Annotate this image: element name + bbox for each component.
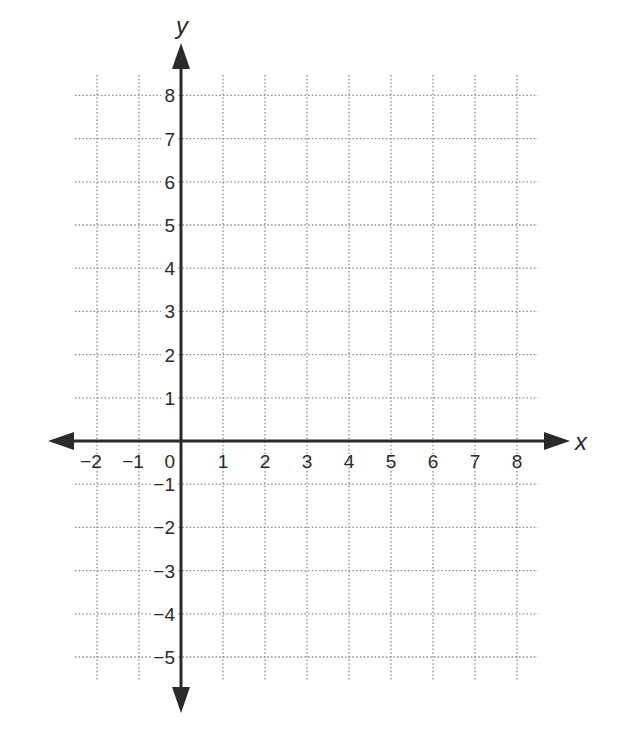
y-tick-label: −2	[153, 517, 175, 538]
y-tick-label: 3	[164, 301, 175, 322]
x-axis-left-arrow-icon	[48, 432, 74, 450]
coordinate-plane: −2−101234567887654321−1−2−3−4−5 x y	[0, 0, 620, 740]
y-tick-label: 2	[164, 345, 175, 366]
x-tick-label: 8	[512, 451, 523, 472]
y-tick-label: 1	[164, 388, 175, 409]
x-tick-label: 2	[260, 451, 271, 472]
y-tick-label: 7	[164, 129, 175, 150]
tick-labels: −2−101234567887654321−1−2−3−4−5	[80, 85, 522, 668]
x-tick-label: 1	[218, 451, 229, 472]
y-tick-label: −4	[153, 604, 175, 625]
y-tick-label: −3	[153, 561, 175, 582]
x-tick-label: 4	[344, 451, 355, 472]
x-tick-label: −1	[122, 451, 144, 472]
y-axis-label: y	[174, 12, 190, 39]
y-tick-label: −1	[153, 474, 175, 495]
x-tick-label: −2	[80, 451, 102, 472]
y-axis-down-arrow-icon	[172, 687, 190, 713]
y-tick-label: −5	[153, 647, 175, 668]
x-tick-label: 3	[302, 451, 313, 472]
x-tick-label: 7	[470, 451, 481, 472]
x-axis-right-arrow-icon	[544, 432, 570, 450]
y-axis-up-arrow-icon	[172, 43, 190, 69]
y-tick-label: 4	[164, 258, 175, 279]
y-tick-label: 8	[164, 85, 175, 106]
x-tick-label: 0	[164, 451, 175, 472]
grid-lines	[75, 75, 538, 680]
axes	[48, 43, 570, 713]
x-tick-label: 5	[386, 451, 397, 472]
x-tick-label: 6	[428, 451, 439, 472]
y-tick-label: 5	[164, 215, 175, 236]
y-tick-label: 6	[164, 172, 175, 193]
x-axis-label: x	[574, 428, 588, 455]
